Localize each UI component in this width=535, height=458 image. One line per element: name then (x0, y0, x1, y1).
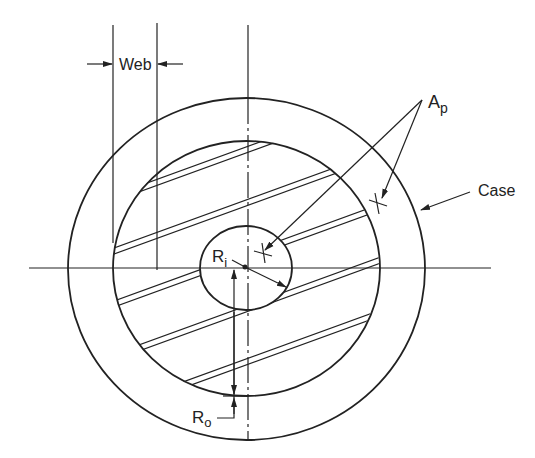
case-label: Case (478, 182, 515, 199)
web-label: Web (119, 56, 152, 73)
ro-label: Ro (192, 408, 212, 430)
grain-cross-section-diagram: Web Ap Case Ri Ro (0, 0, 535, 458)
ri-dimension: Ri (212, 247, 286, 287)
ro-dimension: Ro (192, 270, 245, 430)
ap-label: Ap (428, 92, 448, 116)
case-leader: Case (421, 182, 515, 210)
ap-leaders: Ap (254, 92, 448, 263)
ri-label: Ri (212, 247, 227, 270)
web-dimension: Web (87, 23, 183, 270)
